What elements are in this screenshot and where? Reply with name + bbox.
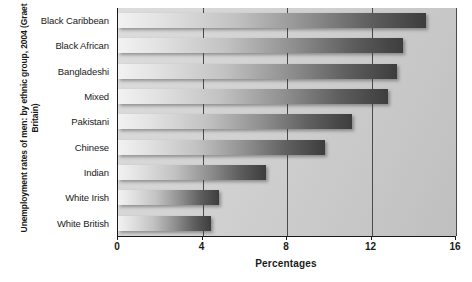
category-label: Indian: [26, 160, 114, 185]
category-label: White British: [26, 211, 114, 236]
category-label: Black African: [26, 33, 114, 58]
bar-row: [118, 211, 456, 236]
category-label: Chinese: [26, 135, 114, 160]
bar-row: [118, 109, 456, 134]
category-label: Pakistani: [26, 109, 114, 134]
bar-row: [118, 59, 456, 84]
bar[interactable]: [118, 140, 325, 155]
x-tick: [202, 236, 203, 240]
x-tick: [371, 236, 372, 240]
x-tick: [455, 236, 456, 240]
bar-row: [118, 84, 456, 109]
chart-container: Unemployment rates of men: by ethnic gro…: [0, 0, 472, 282]
x-tick-label: 8: [283, 241, 289, 252]
bar-series: [118, 8, 456, 236]
bar-row: [118, 135, 456, 160]
bar[interactable]: [118, 190, 219, 205]
category-label-column: Black Caribbean Black African Bangladesh…: [26, 8, 114, 236]
bar[interactable]: [118, 13, 426, 28]
x-axis-label: Percentages: [117, 258, 455, 269]
gridline: [456, 8, 457, 236]
x-tick-label: 0: [114, 241, 120, 252]
x-tick-label: 12: [365, 241, 376, 252]
bar-row: [118, 160, 456, 185]
category-label: Mixed: [26, 84, 114, 109]
bar-row: [118, 8, 456, 33]
x-tick: [286, 236, 287, 240]
bar[interactable]: [118, 89, 388, 104]
plot-area: [117, 8, 456, 236]
bar[interactable]: [118, 114, 352, 129]
bar[interactable]: [118, 64, 397, 79]
x-tick-label: 16: [449, 241, 460, 252]
bar[interactable]: [118, 216, 211, 231]
bar[interactable]: [118, 165, 266, 180]
x-tick: [117, 236, 118, 240]
category-label: Bangladeshi: [26, 59, 114, 84]
bar[interactable]: [118, 38, 403, 53]
bar-row: [118, 185, 456, 210]
bar-row: [118, 33, 456, 58]
category-label: Black Caribbean: [26, 8, 114, 33]
x-tick-label: 4: [199, 241, 205, 252]
category-label: White Irish: [26, 185, 114, 210]
